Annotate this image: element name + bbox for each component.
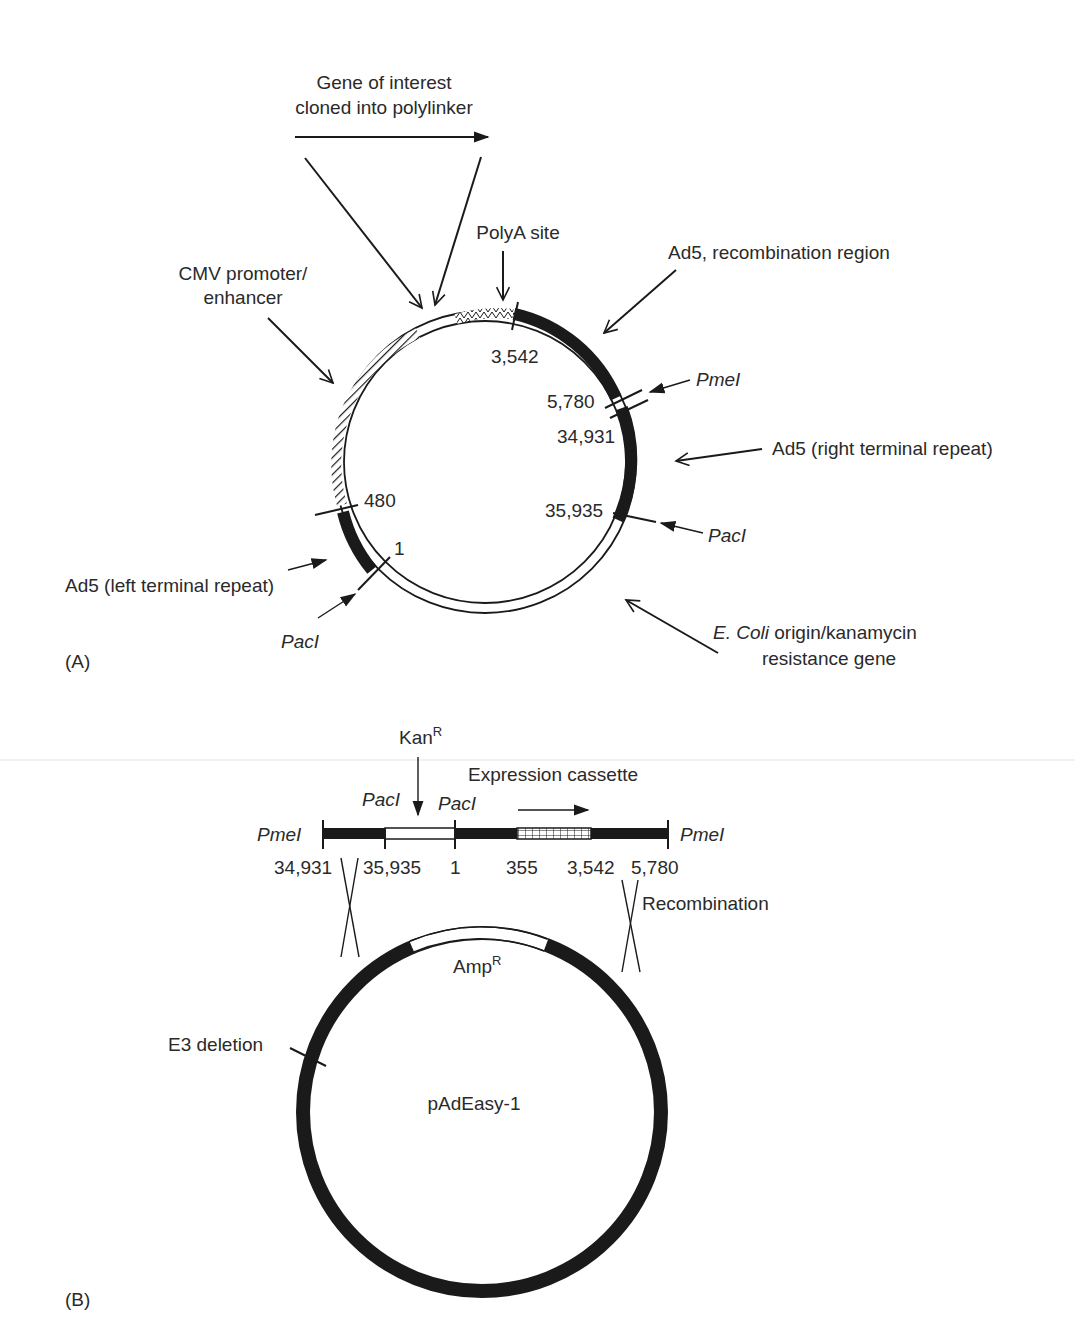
pos-1-label: 1 bbox=[394, 538, 405, 559]
ad5-left-pointer-arrow bbox=[288, 560, 326, 570]
cmv-label-1: CMV promoter/ bbox=[179, 263, 309, 284]
ad5-right-repeat-label: Ad5 (right terminal repeat) bbox=[772, 438, 993, 459]
gene-of-interest-label-2: cloned into polylinker bbox=[295, 97, 473, 118]
ad5-left-segment bbox=[455, 828, 517, 839]
ad5-recombination-segment bbox=[591, 828, 668, 839]
gene-right-pointer-arrow bbox=[435, 157, 481, 305]
kanr-segment bbox=[385, 828, 455, 839]
pos-480-label: 480 bbox=[364, 490, 396, 511]
ad5-right-segment bbox=[323, 828, 385, 839]
ampr-text: Amp bbox=[453, 956, 492, 977]
polya-site-label: PolyA site bbox=[476, 222, 559, 243]
pmei-right-label: PmeI bbox=[680, 824, 725, 845]
pos-5780-label-b: 5,780 bbox=[631, 857, 679, 878]
ecoli-italic-text: E. Coli bbox=[713, 622, 770, 643]
pmei-pointer-arrow bbox=[650, 380, 690, 392]
gene-of-interest-label-1: Gene of interest bbox=[316, 72, 452, 93]
gene-left-pointer-arrow bbox=[305, 158, 422, 308]
plasmid-name-label: pAdEasy-1 bbox=[428, 1093, 521, 1114]
expression-cassette-label: Expression cassette bbox=[468, 764, 638, 785]
ad5-recombination-label: Ad5, recombination region bbox=[668, 242, 890, 263]
ad5-left-repeat-label: Ad5 (left terminal repeat) bbox=[65, 575, 274, 596]
paci-2-label: PacI bbox=[438, 793, 477, 814]
pos-34931-label: 34,931 bbox=[557, 426, 615, 447]
paci-left-pointer-arrow bbox=[318, 594, 355, 618]
paci-right-pointer-arrow bbox=[661, 523, 703, 533]
pos-355-label-b: 355 bbox=[506, 857, 538, 878]
ecoli-rest-text: origin/kanamycin bbox=[769, 622, 917, 643]
paci-left-label: PacI bbox=[281, 631, 320, 652]
pos-34931-label-b: 34,931 bbox=[274, 857, 332, 878]
cmv-pointer-arrow bbox=[268, 318, 333, 383]
ad5-right-repeat-arc bbox=[618, 408, 631, 520]
ecoli-pointer-arrow bbox=[626, 600, 718, 653]
pos-35935-label: 35,935 bbox=[545, 500, 603, 521]
pos-3542-label-b: 3,542 bbox=[567, 857, 615, 878]
pos-5780-label: 5,780 bbox=[547, 391, 595, 412]
ad5-recombination-pointer-arrow bbox=[604, 270, 676, 333]
panel-b: KanR Expression cassette PacI PacI PmeI … bbox=[65, 724, 769, 1310]
cmv-label-2: enhancer bbox=[203, 287, 283, 308]
recombination-label: Recombination bbox=[642, 893, 769, 914]
paci-1-label: PacI bbox=[362, 789, 401, 810]
kanr-text: Kan bbox=[399, 727, 433, 748]
panel-a-tag: (A) bbox=[65, 651, 90, 672]
panel-a: Gene of interest cloned into polylinker … bbox=[65, 72, 993, 672]
kanr-label: KanR bbox=[399, 724, 442, 748]
ecoli-origin-label-1: E. Coli origin/kanamycin bbox=[713, 622, 917, 643]
panel-b-tag: (B) bbox=[65, 1289, 90, 1310]
pmei-label: PmeI bbox=[696, 369, 741, 390]
cmv-promoter-arc bbox=[336, 333, 418, 505]
polya-arc bbox=[456, 313, 513, 319]
pmei-left-label: PmeI bbox=[257, 824, 302, 845]
paci-right-label: PacI bbox=[708, 525, 747, 546]
ecoli-origin-label-2: resistance gene bbox=[762, 648, 896, 669]
polylinker-segment bbox=[517, 828, 591, 839]
ampr-superscript: R bbox=[492, 953, 501, 968]
kanr-superscript: R bbox=[433, 724, 442, 739]
ampr-label: AmpR bbox=[453, 953, 501, 977]
e3-deletion-label: E3 deletion bbox=[168, 1034, 263, 1055]
pos-35935-label-b: 35,935 bbox=[363, 857, 421, 878]
pos-1-label-b: 1 bbox=[450, 857, 461, 878]
pos-3542-label: 3,542 bbox=[491, 346, 539, 367]
ad5-right-pointer-arrow bbox=[676, 449, 762, 461]
vector-diagram: Gene of interest cloned into polylinker … bbox=[0, 0, 1075, 1333]
